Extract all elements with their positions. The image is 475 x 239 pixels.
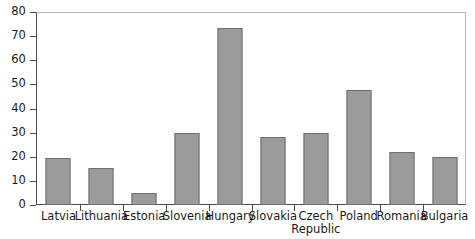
x-axis-tick-label: Bulgaria [417,210,472,223]
y-axis-tick-mark [30,205,36,206]
bar[interactable] [175,133,200,205]
bar[interactable] [218,28,243,205]
bar-slot [123,12,166,205]
bar[interactable] [132,193,157,205]
bar-slot [337,12,380,205]
bar-slot [166,12,209,205]
bar-slot [209,12,252,205]
bar[interactable] [89,168,114,205]
bar[interactable] [303,133,328,205]
bar-slot [252,12,295,205]
bar-slot [37,12,80,205]
bar-chart: 80706050403020100 LatviaLithuaniaEstonia… [0,0,475,239]
bar[interactable] [346,90,371,205]
bar-slot [423,12,466,205]
x-axis-tick-labels: LatviaLithuaniaEstoniaSloveniaHungarySlo… [37,210,466,239]
bar-slot [294,12,337,205]
bar[interactable] [46,158,71,205]
bar[interactable] [432,157,457,205]
y-axis-tick-marks [0,0,40,239]
bar[interactable] [389,152,414,205]
bar-slot [80,12,123,205]
plot-area [37,12,466,205]
bar[interactable] [260,137,285,205]
bar-slot [380,12,423,205]
